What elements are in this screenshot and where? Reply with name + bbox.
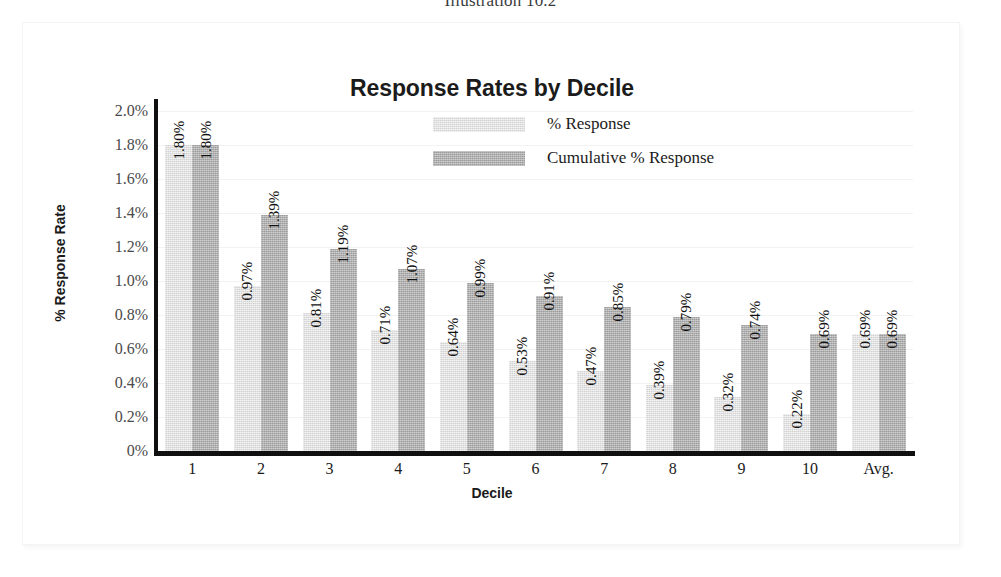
value-axis-line (154, 99, 158, 455)
bar-value-label: 0.79% (678, 265, 695, 331)
y-axis-tick-label: 1.4% (30, 204, 148, 222)
bar-cumulative[interactable] (536, 296, 563, 451)
y-axis-tick-label: 1.2% (30, 238, 148, 256)
bar-group: 0.97%1.39% (234, 101, 288, 451)
bar-value-label: 0.91% (541, 245, 558, 311)
bar-group: 1.80%1.80% (165, 101, 219, 451)
bar-cumulative[interactable] (261, 215, 288, 451)
bar-value-label: 0.47% (582, 320, 599, 386)
y-axis-tick-label: 1.0% (30, 272, 148, 290)
chart-title: Response Rates by Decile (23, 75, 961, 102)
bar-value-label: 1.80% (197, 94, 214, 160)
figure-caption: Illustration 10.2 (0, 0, 1001, 11)
x-axis-title: Decile (23, 485, 961, 501)
bar-cumulative[interactable] (673, 317, 700, 451)
bar-value-label: 0.69% (884, 282, 901, 348)
bar-response[interactable] (234, 286, 261, 451)
bar-value-label: 1.07% (403, 218, 420, 284)
bar-value-label: 0.64% (445, 291, 462, 357)
bar-cumulative[interactable] (741, 325, 768, 451)
y-axis-tick-label: 0.8% (30, 306, 148, 324)
y-axis-tick-label: 0.2% (30, 408, 148, 426)
bar-response[interactable] (303, 313, 330, 451)
bar-response[interactable] (440, 342, 467, 451)
legend-item[interactable]: Cumulative % Response (433, 141, 853, 175)
legend-swatch-icon (433, 151, 525, 166)
chart-figure-frame: Response Rates by Decile % Response Rate… (22, 22, 960, 545)
chart-legend: % ResponseCumulative % Response (433, 107, 853, 175)
bar-value-label: 0.97% (239, 235, 256, 301)
bar-cumulative[interactable] (467, 283, 494, 451)
bar-value-label: 0.69% (857, 282, 874, 348)
bar-value-label: 0.39% (651, 333, 668, 399)
bar-cumulative[interactable] (604, 307, 631, 451)
bar-value-label: 0.74% (746, 274, 763, 340)
bar-cumulative[interactable] (879, 334, 906, 451)
bar-value-label: 0.32% (719, 345, 736, 411)
bar-value-label: 0.85% (609, 255, 626, 321)
bar-group: 0.71%1.07% (371, 101, 425, 451)
legend-label: % Response (547, 114, 631, 134)
bar-group: 0.69%0.69% (852, 101, 906, 451)
y-axis-tick-label: 2.0% (30, 102, 148, 120)
bar-cumulative[interactable] (330, 249, 357, 451)
x-axis-tick-label: Avg. (839, 460, 919, 478)
bar-value-label: 1.19% (335, 197, 352, 263)
bar-cumulative[interactable] (810, 334, 837, 451)
bar-value-label: 0.99% (472, 231, 489, 297)
bar-value-label: 1.39% (266, 163, 283, 229)
bar-group: 0.81%1.19% (303, 101, 357, 451)
bar-value-label: 0.69% (815, 282, 832, 348)
bar-response[interactable] (165, 145, 192, 451)
bar-response[interactable] (852, 334, 879, 451)
bar-value-label: 0.81% (308, 262, 325, 328)
legend-item[interactable]: % Response (433, 107, 853, 141)
y-axis-tick-label: 1.8% (30, 136, 148, 154)
y-axis-tick-label: 0.4% (30, 374, 148, 392)
y-axis-tick-label: 0.6% (30, 340, 148, 358)
bar-cumulative[interactable] (192, 145, 219, 451)
bar-response[interactable] (371, 330, 398, 451)
category-axis-line (154, 451, 915, 456)
bar-value-label: 0.71% (376, 279, 393, 345)
bar-value-label: 0.53% (514, 309, 531, 375)
legend-label: Cumulative % Response (547, 148, 714, 168)
y-axis-tick-label: 0% (30, 442, 148, 460)
y-axis-tick-label: 1.6% (30, 170, 148, 188)
bar-cumulative[interactable] (398, 269, 425, 451)
bar-value-label: 0.22% (788, 362, 805, 428)
legend-swatch-icon (433, 117, 525, 132)
y-axis-tick-labels: 2.0%1.8%1.6%1.4%1.2%1.0%0.8%0.6%0.4%0.2%… (23, 23, 148, 546)
bar-value-label: 1.80% (170, 94, 187, 160)
